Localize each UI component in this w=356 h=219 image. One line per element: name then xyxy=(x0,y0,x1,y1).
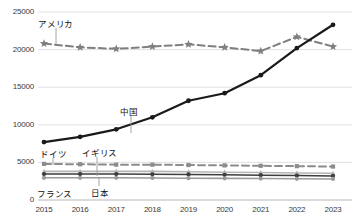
x-axis-tick-label: 2018 xyxy=(132,205,172,214)
data-point xyxy=(295,164,299,168)
data-point xyxy=(223,176,227,180)
data-point xyxy=(331,164,335,168)
series-germany xyxy=(42,162,335,169)
data-point xyxy=(186,98,191,103)
data-point xyxy=(150,163,154,167)
line-chart: 0500010000150002000025000 20152016201720… xyxy=(0,0,356,219)
data-point xyxy=(42,140,47,145)
series-label-1: 中国 xyxy=(120,105,138,117)
data-point xyxy=(257,47,265,55)
series-label-2: ドイツ xyxy=(40,147,66,159)
y-axis-tick-label: 15000 xyxy=(0,82,34,91)
data-point xyxy=(186,176,190,180)
data-point xyxy=(114,163,118,167)
x-axis-tick-label: 2015 xyxy=(24,205,64,214)
x-axis-tick-label: 2019 xyxy=(169,205,209,214)
series-label-5: フランス xyxy=(37,187,72,199)
data-point xyxy=(42,172,46,176)
x-axis-tick-label: 2021 xyxy=(241,205,281,214)
data-point xyxy=(223,163,227,167)
data-point xyxy=(259,176,263,180)
data-point xyxy=(150,115,155,120)
data-point xyxy=(259,164,263,168)
y-axis-tick-label: 10000 xyxy=(0,120,34,129)
data-point xyxy=(184,40,192,48)
data-point xyxy=(329,42,337,50)
y-axis-tick-label: 0 xyxy=(0,195,34,204)
series-label-3: イギリス xyxy=(82,146,117,158)
data-point xyxy=(258,73,263,78)
data-point xyxy=(78,162,82,166)
x-axis-tick-label: 2023 xyxy=(313,205,353,214)
series-label-4: 日本 xyxy=(91,186,109,198)
data-point xyxy=(78,172,82,176)
data-point xyxy=(295,177,299,181)
data-point xyxy=(150,172,154,176)
data-point xyxy=(40,39,48,47)
data-point xyxy=(186,163,190,167)
data-point xyxy=(294,46,299,51)
series-france xyxy=(42,176,335,181)
data-point xyxy=(331,177,335,181)
data-point xyxy=(78,134,83,139)
y-axis-tick-label: 25000 xyxy=(0,7,34,16)
data-point xyxy=(42,176,46,180)
data-point xyxy=(293,32,301,40)
x-axis-tick-label: 2022 xyxy=(277,205,317,214)
data-point xyxy=(148,42,156,50)
x-axis-tick-label: 2017 xyxy=(96,205,136,214)
data-point xyxy=(42,162,46,166)
x-axis-tick-label: 2020 xyxy=(205,205,245,214)
y-axis-tick-label: 5000 xyxy=(0,157,34,166)
data-point xyxy=(331,22,336,27)
y-axis-tick-label: 20000 xyxy=(0,45,34,54)
data-point xyxy=(114,176,118,180)
data-point xyxy=(186,172,190,176)
x-axis-tick-label: 2016 xyxy=(60,205,100,214)
data-point xyxy=(150,176,154,180)
data-point xyxy=(112,45,120,53)
data-point xyxy=(78,176,82,180)
series-label-0: アメリカ xyxy=(38,17,73,29)
data-point xyxy=(114,172,118,176)
data-point xyxy=(222,91,227,96)
data-point xyxy=(114,127,119,132)
